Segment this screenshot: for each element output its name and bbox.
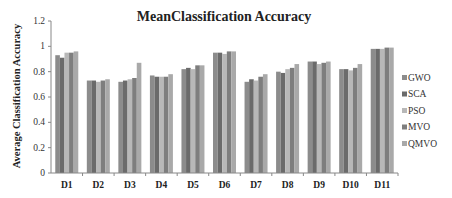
bar-qmvo-d7 xyxy=(263,74,268,173)
bar-pso-d5 xyxy=(191,69,196,173)
x-axis-ticks: D1D2D3D4D5D6D7D8D9D10D11 xyxy=(61,173,398,190)
y-tick-label: 0.4 xyxy=(33,117,45,127)
legend-label-qmvo: QMVO xyxy=(408,139,437,149)
y-tick-label: 1.2 xyxy=(33,16,45,26)
bar-pso-d9 xyxy=(317,64,322,173)
bar-qmvo-d6 xyxy=(231,51,236,173)
y-axis-label: Average Classification Accuracy xyxy=(11,23,22,168)
bar-mvo-d4 xyxy=(164,77,169,173)
bar-mvo-d9 xyxy=(321,63,326,173)
bar-sca-d10 xyxy=(344,69,349,173)
bar-mvo-d5 xyxy=(195,65,200,173)
x-tick-label: D7 xyxy=(250,180,262,190)
legend: GWOSCAPSOMVOQMVO xyxy=(402,73,437,149)
bar-pso-d3 xyxy=(128,79,133,173)
y-tick-label: 1 xyxy=(40,41,45,51)
bar-qmvo-d9 xyxy=(326,62,331,173)
bar-gwo-d7 xyxy=(245,82,250,173)
bar-sca-d3 xyxy=(123,81,128,173)
bar-mvo-d10 xyxy=(353,68,358,173)
x-tick-label: D4 xyxy=(156,180,168,190)
bar-pso-d1 xyxy=(64,53,69,173)
bar-gwo-d9 xyxy=(308,62,313,173)
legend-swatch-mvo xyxy=(402,125,407,130)
legend-label-gwo: GWO xyxy=(408,73,431,83)
bar-mvo-d7 xyxy=(258,77,263,173)
bar-gwo-d6 xyxy=(213,53,218,173)
chart-title: MeanClassification Accuracy xyxy=(137,9,312,24)
legend-swatch-sca xyxy=(402,92,407,97)
x-tick-label: D1 xyxy=(61,180,73,190)
bar-pso-d7 xyxy=(254,81,259,173)
legend-label-mvo: MVO xyxy=(408,122,430,132)
bar-sca-d9 xyxy=(312,62,317,173)
bar-pso-d8 xyxy=(285,69,290,173)
bar-qmvo-d3 xyxy=(137,63,142,173)
legend-label-sca: SCA xyxy=(408,89,427,99)
bar-mvo-d3 xyxy=(132,78,137,173)
x-tick-label: D10 xyxy=(342,180,359,190)
bar-sca-d6 xyxy=(218,53,223,173)
bar-pso-d10 xyxy=(348,70,353,173)
x-tick-label: D9 xyxy=(313,180,325,190)
bar-sca-d7 xyxy=(249,79,254,173)
bar-sca-d11 xyxy=(375,49,380,173)
bar-mvo-d8 xyxy=(290,68,295,173)
x-tick-label: D3 xyxy=(124,180,136,190)
x-tick-label: D11 xyxy=(374,180,390,190)
bar-sca-d8 xyxy=(281,73,286,173)
bar-sca-d2 xyxy=(91,81,96,173)
bar-pso-d4 xyxy=(159,77,164,173)
legend-label-pso: PSO xyxy=(408,106,426,116)
bar-pso-d11 xyxy=(380,49,385,173)
bar-gwo-d4 xyxy=(150,75,155,173)
y-tick-label: 0 xyxy=(40,168,45,178)
y-tick-label: 0.6 xyxy=(33,92,45,102)
bar-sca-d1 xyxy=(60,58,65,173)
x-tick-label: D2 xyxy=(93,180,105,190)
bar-gwo-d10 xyxy=(339,69,344,173)
legend-swatch-pso xyxy=(402,108,407,113)
bar-gwo-d8 xyxy=(276,72,281,173)
bar-gwo-d2 xyxy=(87,81,92,173)
bar-qmvo-d10 xyxy=(358,64,363,173)
bar-qmvo-d2 xyxy=(105,79,110,173)
bar-qmvo-d1 xyxy=(74,51,79,173)
x-tick-label: D5 xyxy=(187,180,199,190)
bar-qmvo-d11 xyxy=(389,48,394,173)
bar-qmvo-d4 xyxy=(168,74,173,173)
bar-gwo-d3 xyxy=(118,82,123,173)
bar-chart: MeanClassification Accuracy Average Clas… xyxy=(0,0,452,198)
x-tick-label: D6 xyxy=(219,180,231,190)
bar-qmvo-d5 xyxy=(200,65,205,173)
bar-pso-d2 xyxy=(96,82,101,173)
bar-gwo-d1 xyxy=(55,55,60,173)
bar-gwo-d11 xyxy=(371,49,376,173)
bar-mvo-d11 xyxy=(385,48,390,173)
bar-mvo-d1 xyxy=(69,53,74,173)
y-tick-label: 0.8 xyxy=(33,67,45,77)
bar-mvo-d6 xyxy=(227,51,232,173)
y-axis-ticks: 00.20.40.60.811.2 xyxy=(33,16,51,178)
bar-sca-d5 xyxy=(186,68,191,173)
legend-swatch-qmvo xyxy=(402,141,407,146)
bar-pso-d6 xyxy=(222,54,227,173)
bar-sca-d4 xyxy=(155,77,160,173)
legend-swatch-gwo xyxy=(402,75,407,80)
bar-qmvo-d8 xyxy=(294,64,299,173)
y-tick-label: 0.2 xyxy=(33,143,45,153)
bar-mvo-d2 xyxy=(101,81,106,173)
x-tick-label: D8 xyxy=(282,180,294,190)
bar-gwo-d5 xyxy=(181,69,186,173)
bar-series xyxy=(55,48,393,173)
